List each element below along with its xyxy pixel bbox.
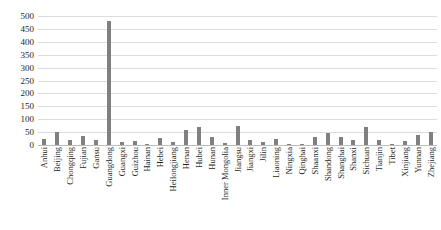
bar-slot bbox=[321, 16, 334, 145]
x-axis-tick-label: Shanxi bbox=[349, 147, 358, 171]
bar-slot bbox=[270, 16, 283, 145]
bar bbox=[236, 126, 240, 145]
x-axis-tick: Shanghai bbox=[334, 147, 347, 229]
x-axis-tick: Henan bbox=[180, 147, 193, 229]
bar bbox=[364, 127, 368, 145]
bar bbox=[248, 140, 252, 145]
bar-slot bbox=[244, 16, 257, 145]
bar bbox=[55, 132, 59, 145]
bar-slot bbox=[334, 16, 347, 145]
x-axis-tick-label: Gansu bbox=[92, 147, 101, 169]
x-axis-tick: Hebei bbox=[154, 147, 167, 229]
bar bbox=[403, 141, 407, 145]
bar-slot bbox=[231, 16, 244, 145]
x-axis-tick-label: Hunan bbox=[208, 147, 217, 170]
bar-slot bbox=[205, 16, 218, 145]
bar-series bbox=[38, 16, 437, 145]
bar bbox=[261, 142, 265, 145]
x-axis-tick-label: Jiangsu bbox=[233, 147, 242, 173]
x-axis-tick-label: Jilin bbox=[259, 147, 268, 162]
x-axis-tick-label: Liaoning bbox=[272, 147, 281, 178]
x-axis-tick: Tianjin bbox=[373, 147, 386, 229]
bar bbox=[210, 137, 214, 145]
bar bbox=[274, 139, 278, 145]
bar-chart: 500450400350300250200150100500 AnhuiBeij… bbox=[0, 0, 441, 230]
x-axis-tick: Hubei bbox=[193, 147, 206, 229]
x-axis-tick-label: Ningxia bbox=[285, 147, 294, 174]
y-axis: 500450400350300250200150100500 bbox=[0, 16, 34, 145]
x-axis-tick-label: Jiangxi bbox=[246, 147, 255, 172]
plot-area bbox=[38, 16, 437, 145]
bar bbox=[223, 143, 227, 145]
bar-slot bbox=[64, 16, 77, 145]
y-axis-tick-label: 0 bbox=[30, 141, 35, 150]
y-axis-tick-label: 400 bbox=[21, 37, 35, 46]
bar-slot bbox=[51, 16, 64, 145]
bar-slot bbox=[180, 16, 193, 145]
y-axis-tick-label: 450 bbox=[21, 24, 35, 33]
y-axis-tick-label: 350 bbox=[21, 50, 35, 59]
bar-slot bbox=[257, 16, 270, 145]
x-axis-tick: Guizhou bbox=[128, 147, 141, 229]
x-axis-tick: Zhejiang bbox=[424, 147, 437, 229]
y-axis-tick-label: 50 bbox=[25, 128, 34, 137]
x-axis-tick-label: Guizhou bbox=[130, 147, 139, 176]
bar-slot bbox=[218, 16, 231, 145]
bar-slot bbox=[128, 16, 141, 145]
bar-slot bbox=[77, 16, 90, 145]
x-axis: AnhuiBeijingChongqingFujianGansuGuangdon… bbox=[38, 147, 437, 229]
bar bbox=[326, 133, 330, 145]
bar-slot bbox=[308, 16, 321, 145]
bar bbox=[184, 130, 188, 145]
y-axis-tick-label: 100 bbox=[21, 115, 35, 124]
x-axis-tick-label: Beijing bbox=[53, 147, 62, 172]
bar-slot bbox=[115, 16, 128, 145]
bar bbox=[120, 142, 124, 145]
x-axis-tick-label: Xinjiang bbox=[401, 147, 410, 177]
x-axis-tick-label: Qinghai bbox=[298, 147, 307, 174]
x-axis-tick: Fujian bbox=[77, 147, 90, 229]
bar-slot bbox=[424, 16, 437, 145]
x-axis-tick-label: Guangxi bbox=[117, 147, 126, 176]
bar-slot bbox=[38, 16, 51, 145]
bar bbox=[351, 140, 355, 145]
bar-slot bbox=[399, 16, 412, 145]
x-axis-tick: Yunnan bbox=[411, 147, 424, 229]
bar-slot bbox=[167, 16, 180, 145]
x-axis-tick: Shanxi bbox=[347, 147, 360, 229]
x-axis-tick-label: Guangdong bbox=[105, 147, 114, 187]
x-axis-tick-label: Hubei bbox=[195, 147, 204, 168]
bar-slot bbox=[102, 16, 115, 145]
x-axis-tick: Qinghai bbox=[296, 147, 309, 229]
x-axis-tick: Ningxia bbox=[283, 147, 296, 229]
x-axis-tick-label: Tianjin bbox=[375, 147, 384, 171]
x-axis-tick-label: Inner Mongolia bbox=[220, 147, 229, 200]
bar bbox=[197, 127, 201, 145]
bar bbox=[287, 144, 291, 145]
bar bbox=[107, 21, 111, 145]
x-axis-tick-label: Zhejiang bbox=[426, 147, 435, 177]
x-axis-tick: Shaanxi bbox=[308, 147, 321, 229]
bar bbox=[133, 141, 137, 145]
x-axis-tick: Beijing bbox=[51, 147, 64, 229]
x-axis-tick: Guangdong bbox=[102, 147, 115, 229]
x-axis-tick: Shandong bbox=[321, 147, 334, 229]
bar-slot bbox=[347, 16, 360, 145]
bar bbox=[339, 137, 343, 145]
x-axis-tick: Tibet bbox=[386, 147, 399, 229]
bar bbox=[429, 132, 433, 145]
bar-slot bbox=[386, 16, 399, 145]
bar-slot bbox=[283, 16, 296, 145]
x-axis-tick: Anhui bbox=[38, 147, 51, 229]
x-axis-tick: Chongqing bbox=[64, 147, 77, 229]
bar bbox=[171, 142, 175, 145]
y-axis-tick-label: 200 bbox=[21, 89, 35, 98]
x-axis-tick-label: Shanghai bbox=[336, 147, 345, 179]
x-axis-tick-label: Tibet bbox=[388, 147, 397, 165]
bar-slot bbox=[90, 16, 103, 145]
bar-slot bbox=[296, 16, 309, 145]
x-axis-tick-label: Hebei bbox=[156, 147, 165, 167]
x-axis-tick-label: Yunnan bbox=[414, 147, 423, 173]
x-axis-tick: Sichuan bbox=[360, 147, 373, 229]
x-axis-tick-label: Anhui bbox=[40, 147, 49, 168]
